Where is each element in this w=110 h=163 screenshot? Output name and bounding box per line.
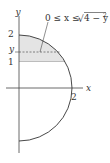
annotation-prefix: 0 ≤ x ≤ xyxy=(45,13,79,23)
y-tick-1: 1 xyxy=(8,57,14,67)
exponent: 2 xyxy=(103,11,107,18)
x-tick-2: 2 xyxy=(71,92,77,102)
y-tick-y: y xyxy=(8,44,15,54)
x-axis-label: x xyxy=(86,83,91,93)
diagram-canvas: y x 2 y 1 2 0 ≤ x ≤ √ 4 − y 2 xyxy=(0,0,110,163)
annotation-formula: 0 ≤ x ≤ √ 4 − y 2 xyxy=(45,11,109,24)
shaded-region xyxy=(19,35,65,62)
y-axis-label: y xyxy=(15,7,22,17)
y-tick-2: 2 xyxy=(8,29,14,39)
